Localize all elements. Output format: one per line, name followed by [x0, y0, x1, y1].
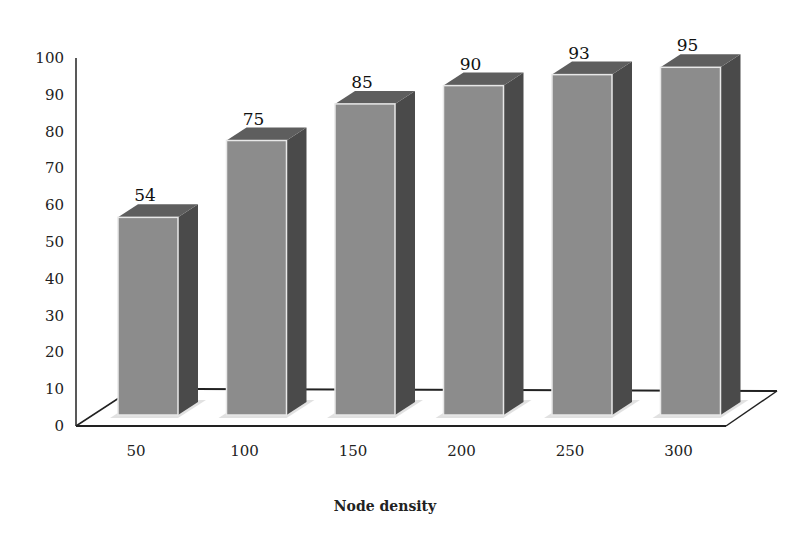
y-tick-label: 40	[45, 270, 64, 288]
x-tick-label: 100	[230, 442, 259, 460]
x-tick-label: 250	[556, 442, 585, 460]
bar-250: 93	[544, 43, 640, 418]
data-label: 95	[677, 35, 699, 55]
x-tick-label: 150	[339, 442, 368, 460]
data-label: 54	[134, 185, 156, 205]
y-tick-label: 100	[35, 49, 64, 67]
x-tick-label: 50	[126, 442, 145, 460]
x-axis-title: Node density	[334, 498, 437, 514]
y-tick-label: 20	[45, 343, 64, 361]
y-tick-label: 30	[45, 307, 64, 325]
bar-chart: 0102030405060708090100 547585909395 5010…	[0, 0, 810, 534]
x-tick-label: 200	[447, 442, 476, 460]
y-tick-label: 80	[45, 123, 64, 141]
y-tick-label: 0	[54, 417, 64, 435]
y-tick-label: 90	[45, 86, 64, 104]
bar-100: 75	[219, 109, 315, 419]
data-label: 93	[568, 43, 590, 63]
bar-50: 54	[110, 185, 206, 418]
y-tick-label: 10	[45, 380, 64, 398]
y-axis: 0102030405060708090100	[35, 49, 76, 435]
y-tick-label: 70	[45, 159, 64, 177]
y-tick-label: 60	[45, 196, 64, 214]
bar-150: 85	[327, 72, 423, 418]
x-tick-label: 300	[664, 442, 693, 460]
bar-200: 90	[436, 54, 532, 418]
data-label: 85	[351, 72, 373, 92]
x-axis: 50100150200250300	[126, 442, 692, 460]
bar-300: 95	[653, 35, 749, 418]
data-label: 90	[460, 54, 482, 74]
data-label: 75	[243, 109, 265, 129]
bars: 547585909395	[110, 35, 749, 418]
y-tick-label: 50	[45, 233, 64, 251]
